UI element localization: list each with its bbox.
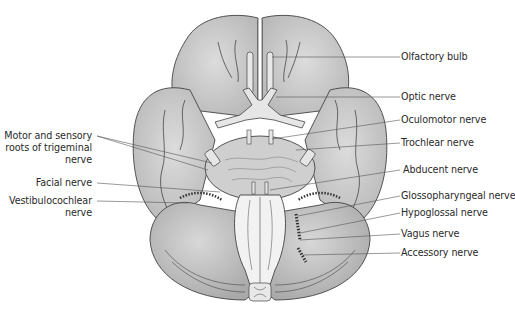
label-hypoglossal-nerve: Hypoglossal nerve	[401, 207, 488, 219]
label-trigeminal-nerve: Motor and sensory roots of trigeminal ne…	[4, 130, 92, 166]
label-olfactory-bulb: Olfactory bulb	[401, 51, 468, 63]
label-accessory-nerve: Accessory nerve	[401, 247, 478, 259]
label-trochlear-nerve: Trochlear nerve	[401, 137, 474, 149]
label-facial-nerve: Facial nerve	[36, 177, 92, 189]
label-oculomotor-nerve: Oculomotor nerve	[401, 114, 486, 126]
label-vagus-nerve: Vagus nerve	[401, 228, 459, 240]
pons	[204, 130, 316, 200]
label-optic-nerve: Optic nerve	[401, 91, 456, 103]
label-glossopharyngeal-nerve: Glossopharyngeal nerve	[401, 190, 515, 202]
label-abducent-nerve: Abducent nerve	[403, 164, 478, 176]
label-vestibulocochlear-nerve: Vestibulocochlear nerve	[9, 195, 92, 219]
